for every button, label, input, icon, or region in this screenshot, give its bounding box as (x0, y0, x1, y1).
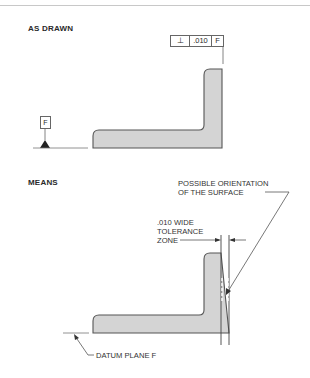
zone-callout-line1: .010 WIDE (157, 218, 194, 227)
heading-means: MEANS (28, 178, 58, 187)
arrow-left-icon (229, 238, 235, 242)
datum-plane-arrow-icon (74, 334, 79, 340)
part-means (93, 253, 229, 333)
orientation-callout-line1: POSSIBLE ORIENTATION (178, 179, 268, 188)
datum-triangle-icon (40, 140, 50, 148)
arrow-right-icon (215, 238, 221, 242)
zone-callout-line2: TOLERANCE (157, 227, 203, 236)
drawing-canvas (0, 0, 310, 378)
orientation-callout-line2: OF THE SURFACE (178, 188, 244, 197)
part-as-drawn (93, 69, 222, 148)
datum-plane-label: DATUM PLANE F (96, 351, 156, 360)
orientation-leader (227, 192, 289, 293)
zone-callout-line3: ZONE (157, 236, 178, 245)
